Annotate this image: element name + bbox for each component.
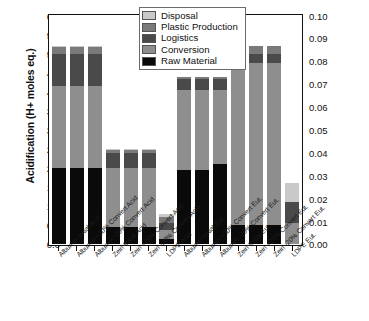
y-axis-right-tick-label: 0.06 — [309, 102, 328, 113]
bar-segment-logistics — [106, 153, 120, 168]
chart-legend: Disposal Plastic Production Logistics Co… — [139, 7, 246, 70]
legend-swatch-raw-material — [142, 57, 156, 66]
bar-segment-logistics — [142, 153, 156, 168]
bar-segment-logistics — [267, 54, 281, 64]
bar — [52, 46, 66, 244]
bar-segment-plastic-production — [52, 47, 66, 54]
legend-swatch-conversion — [142, 45, 156, 54]
bar-segment-conversion — [177, 90, 191, 170]
y-axis-right-tick-label: 0.02 — [309, 193, 328, 204]
bar-segment-conversion — [70, 86, 84, 168]
legend-label-conversion: Conversion — [161, 45, 210, 55]
legend-swatch-disposal — [142, 11, 156, 20]
bar-segment-plastic-production — [267, 46, 281, 54]
bar-segment-logistics — [177, 79, 191, 90]
legend-item: Conversion — [142, 44, 242, 55]
bar — [195, 77, 209, 245]
acidification-eutrophication-stacked-bar-chart: Acidification (H+ moles eq.) Eutrophicat… — [0, 0, 369, 321]
legend-swatch-logistics — [142, 34, 156, 43]
bar — [267, 46, 281, 244]
legend-label-disposal: Disposal — [161, 11, 198, 21]
bar-segment-conversion — [231, 63, 245, 225]
y-axis-right-tick-label: 0.07 — [309, 79, 328, 90]
legend-item: Raw Material — [142, 56, 242, 67]
bar-segment-logistics — [249, 54, 263, 64]
bar-segment-disposal — [285, 183, 299, 202]
legend-item: Plastic Production — [142, 21, 242, 32]
bar-segment-logistics — [70, 54, 84, 86]
y-axis-right-tick-label: 0.04 — [309, 147, 328, 158]
bar-segment-logistics — [213, 79, 227, 90]
legend-item: Disposal — [142, 10, 242, 21]
bar-segment-conversion — [52, 86, 66, 168]
y-axis-right-tick-label: 0.10 — [309, 10, 328, 21]
legend-swatch-plastic-production — [142, 23, 156, 32]
bar-segment-conversion — [195, 90, 209, 170]
bar-segment-plastic-production — [249, 46, 263, 54]
legend-item: Logistics — [142, 33, 242, 44]
y-axis-right-tick-label: 0.09 — [309, 33, 328, 44]
y-axis-right-tick-label: 0.08 — [309, 56, 328, 67]
y-axis-right-tick-label: 0.03 — [309, 170, 328, 181]
bar-segment-raw-material — [52, 168, 66, 244]
bar-segment-conversion — [88, 86, 102, 168]
legend-label-raw-material: Raw Material — [161, 56, 217, 66]
bar — [70, 46, 84, 244]
bar-segment-plastic-production — [70, 47, 84, 54]
bar-segment-plastic-production — [88, 47, 102, 54]
bar-segment-logistics — [88, 54, 102, 86]
bar-segment-conversion — [213, 90, 227, 164]
bar-segment-logistics — [52, 54, 66, 86]
bar-segment-logistics — [124, 153, 138, 168]
y-axis-left-title: Acidification (H+ moles eq.) — [24, 26, 36, 206]
legend-label-logistics: Logistics — [161, 33, 198, 43]
legend-label-plastic-production: Plastic Production — [161, 22, 238, 32]
bar-segment-logistics — [195, 79, 209, 90]
y-axis-right-tick-label: 0.05 — [309, 125, 328, 136]
